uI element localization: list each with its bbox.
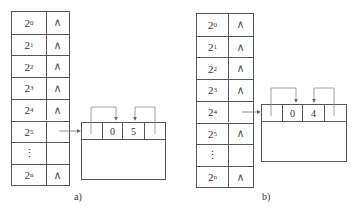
self-link-arrow-icon bbox=[91, 107, 116, 134]
self-link-arrow-icon bbox=[271, 88, 296, 116]
self-link-arrow-icon bbox=[314, 88, 334, 116]
self-link-arrow-icon bbox=[135, 107, 155, 134]
connector-arrows bbox=[0, 0, 354, 209]
